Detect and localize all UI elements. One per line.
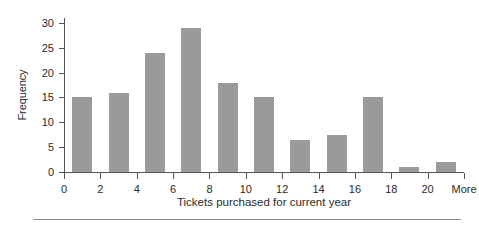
x-tick-12 <box>282 173 283 179</box>
bottom-divider <box>33 219 461 220</box>
x-tick-label-0: 0 <box>44 182 84 196</box>
bar <box>109 93 129 172</box>
x-tick-label-8: 8 <box>189 182 229 196</box>
x-tick-8 <box>209 173 210 179</box>
x-axis-title: Tickets purchased for current year <box>64 196 464 208</box>
x-tick-16 <box>355 173 356 179</box>
x-tick-label-14: 14 <box>299 182 339 196</box>
x-tick-label-18: 18 <box>371 182 411 196</box>
x-tick-14 <box>319 173 320 179</box>
y-tick-label-20: 20 <box>14 67 54 79</box>
y-tick-label-10: 10 <box>14 116 54 128</box>
x-tick-label-More: More <box>444 182 479 196</box>
x-tick-label-2: 2 <box>80 182 120 196</box>
x-tick-label-20: 20 <box>408 182 448 196</box>
bar <box>145 53 165 172</box>
x-tick-label-10: 10 <box>226 182 266 196</box>
y-tick-label-30: 30 <box>14 17 54 29</box>
x-tick-2 <box>100 173 101 179</box>
x-tick-20 <box>428 173 429 179</box>
x-tick-0 <box>64 173 65 179</box>
y-tick-label-0: 0 <box>14 166 54 178</box>
bar <box>436 162 456 172</box>
bar-series <box>64 18 464 172</box>
bar <box>218 83 238 172</box>
bar <box>363 97 383 172</box>
y-tick-label-25: 25 <box>14 42 54 54</box>
histogram-figure: Frequency 051015202530 02468101214161820… <box>0 0 479 226</box>
x-tick-10 <box>246 173 247 179</box>
bar <box>72 97 92 172</box>
x-tick-label-16: 16 <box>335 182 375 196</box>
x-tick-label-6: 6 <box>153 182 193 196</box>
bar <box>181 28 201 172</box>
x-tick-6 <box>173 173 174 179</box>
x-tick-label-12: 12 <box>262 182 302 196</box>
y-tick-label-5: 5 <box>14 141 54 153</box>
x-tick-label-4: 4 <box>117 182 157 196</box>
x-tick-4 <box>137 173 138 179</box>
bar <box>399 167 419 172</box>
x-axis-line <box>64 172 464 173</box>
y-tick-label-15: 15 <box>14 91 54 103</box>
bar <box>290 140 310 172</box>
x-tick-18 <box>391 173 392 179</box>
x-tick-More <box>464 173 465 179</box>
bar <box>327 135 347 172</box>
bar <box>254 97 274 172</box>
